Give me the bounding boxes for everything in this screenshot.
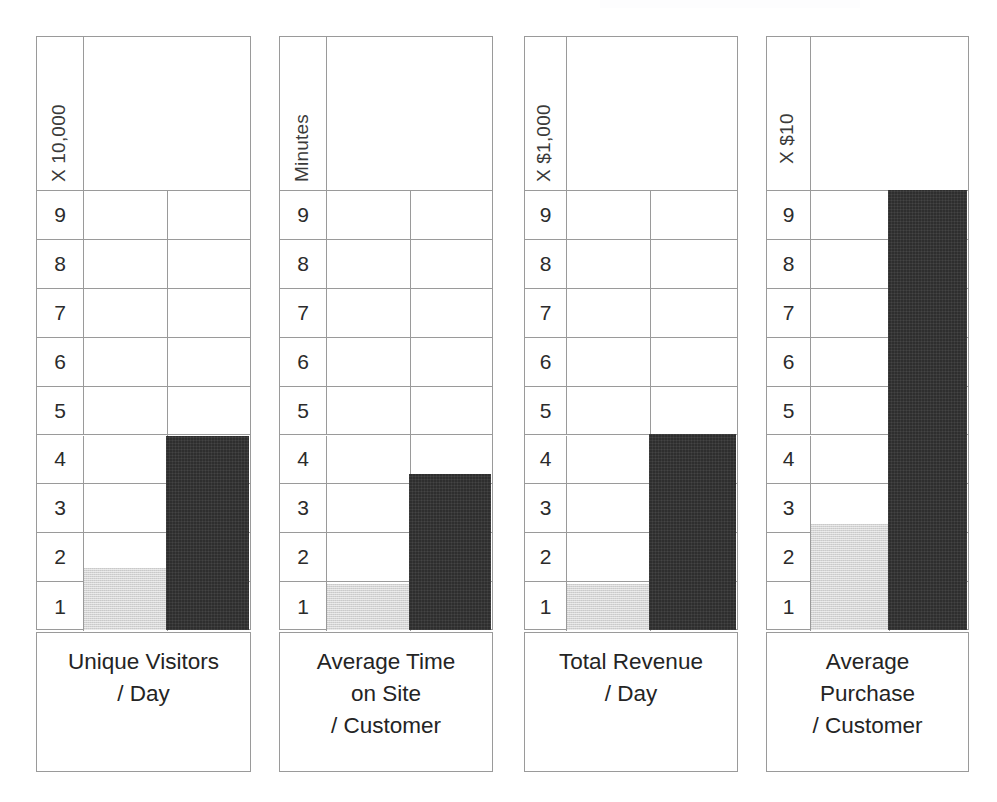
axis-unit-label: Minutes [291,114,313,182]
chart-panel: Minutes987654321Average Timeon Site/ Cus… [279,36,493,772]
bars-plot-area [811,190,967,630]
y-axis-tick-label: 7 [37,289,84,337]
caption-line: / Day [37,678,250,710]
y-axis-tick-label: 8 [280,240,327,288]
y-axis-tick-label: 9 [37,191,84,239]
y-axis-tick-label: 7 [525,289,567,337]
y-axis-tick-label: 5 [767,387,811,435]
y-axis-tick-label: 1 [37,582,84,631]
unit-label-cell: Minutes [280,37,327,190]
y-axis-tick-label: 7 [280,289,327,337]
unit-header-row: Minutes [280,37,492,191]
y-axis-tick-label: 9 [525,191,567,239]
unit-label-cell: X 10,000 [37,37,84,190]
y-axis-tick-label: 6 [767,338,811,386]
caption-line: / Day [525,678,737,710]
y-axis-tick-label: 2 [525,533,567,581]
y-axis-tick-label: 6 [280,338,327,386]
unit-label-cell: X $10 [767,37,811,190]
y-axis-tick-label: 3 [525,484,567,532]
unit-label-cell: X $1,000 [525,37,567,190]
y-axis-tick-label: 1 [525,582,567,631]
bar-after [649,434,736,630]
bar-before [567,584,649,630]
bar-before [327,584,409,630]
axis-unit-label: X 10,000 [48,104,70,182]
y-axis-tick-label: 8 [525,240,567,288]
chart-panel: X $1,000987654321Total Revenue/ Day [524,36,738,772]
axis-unit-label: X $1,000 [533,104,555,182]
y-axis-tick-label: 9 [767,191,811,239]
y-axis-tick-label: 4 [280,436,327,484]
caption-line: / Customer [280,710,492,742]
scan-artifact [600,0,860,8]
y-axis-tick-label: 3 [767,484,811,532]
y-axis-tick-label: 2 [767,533,811,581]
unit-header-row: X 10,000 [37,37,250,191]
bar-after [409,474,491,630]
bar-after [888,190,967,630]
y-axis-tick-label: 1 [767,582,811,631]
figure-canvas: X 10,000987654321Unique Visitors/ DayMin… [0,0,997,802]
y-axis-tick-label: 5 [525,387,567,435]
caption-line: Unique Visitors [37,646,250,678]
axis-unit-label: X $10 [776,113,798,164]
bars-plot-area [567,190,736,630]
y-axis-tick-label: 4 [767,436,811,484]
y-axis-tick-label: 3 [37,484,84,532]
panel-caption: Unique Visitors/ Day [36,632,251,772]
y-axis-tick-label: 3 [280,484,327,532]
bar-before [84,568,166,630]
y-axis-tick-label: 1 [280,582,327,631]
chart-panel: X 10,000987654321Unique Visitors/ Day [36,36,251,772]
bars-plot-area [84,190,249,630]
caption-line: Purchase [767,678,968,710]
unit-header-row: X $1,000 [525,37,737,191]
y-axis-tick-label: 8 [767,240,811,288]
y-axis-tick-label: 8 [37,240,84,288]
y-axis-tick-label: 2 [280,533,327,581]
panel-caption: AveragePurchase/ Customer [766,632,969,772]
y-axis-tick-label: 5 [280,387,327,435]
y-axis-tick-label: 6 [37,338,84,386]
caption-line: Average Time [280,646,492,678]
y-axis-tick-label: 6 [525,338,567,386]
caption-line: / Customer [767,710,968,742]
y-axis-tick-label: 7 [767,289,811,337]
caption-line: Total Revenue [525,646,737,678]
panel-caption: Total Revenue/ Day [524,632,738,772]
panel-caption: Average Timeon Site/ Customer [279,632,493,772]
caption-line: on Site [280,678,492,710]
y-axis-tick-label: 2 [37,533,84,581]
chart-panel: X $10987654321AveragePurchase/ Customer [766,36,969,772]
caption-line: Average [767,646,968,678]
y-axis-tick-label: 5 [37,387,84,435]
y-axis-tick-label: 9 [280,191,327,239]
bars-plot-area [327,190,491,630]
bar-before [811,524,888,630]
y-axis-tick-label: 4 [37,436,84,484]
unit-header-row: X $10 [767,37,968,191]
y-axis-tick-label: 4 [525,436,567,484]
bar-after [166,436,249,630]
